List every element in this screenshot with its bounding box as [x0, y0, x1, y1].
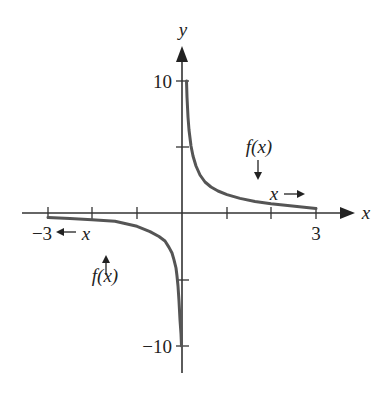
annotation-fx-upper: f(x): [246, 136, 272, 158]
y-tick-label-neg10: −10: [142, 336, 172, 357]
x-axis-arrow-icon: [340, 207, 355, 219]
chart: y x 10 −10 −3 3 f(x) x x f(x): [0, 0, 380, 401]
x-axis-label: x: [361, 202, 371, 223]
annotation-x-left: x: [81, 223, 91, 244]
y-axis-label: y: [177, 19, 188, 40]
y-axis-arrow-icon: [176, 46, 188, 62]
annotation-fx-lower: f(x): [92, 265, 118, 287]
annotation-x-right: x: [269, 183, 279, 204]
y-tick-label-10: 10: [153, 71, 172, 92]
x-tick-label-3: 3: [311, 223, 321, 244]
x-tick-label-neg3: −3: [32, 223, 52, 244]
